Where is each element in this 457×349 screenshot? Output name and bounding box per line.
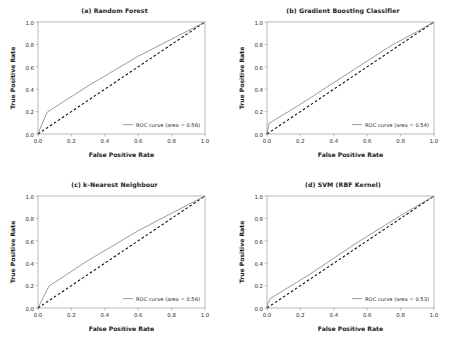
x-tick-label: 0.6 xyxy=(363,312,372,318)
x-tick-label: 0.8 xyxy=(396,312,405,318)
y-axis-title: True Positive Rate xyxy=(9,47,16,110)
y-tick-label: 0.4 xyxy=(25,87,34,93)
y-tick-label: 0.8 xyxy=(25,42,34,48)
panel-b-y-ticks: 1.0 0.8 0.6 0.4 0.2 0.0 xyxy=(254,20,263,138)
roc-curve-figure: (a) Random Forest 1.0 0.8 0.6 0.4 0.2 0.… xyxy=(0,0,457,349)
x-tick-label: 1.0 xyxy=(430,312,439,318)
legend-label: ROC curve (area = 0.54) xyxy=(365,122,429,128)
panel-b-gradient-boosting: (b) Gradient Boosting Classifier 1.0 0.8… xyxy=(229,0,457,174)
x-tick-label: 0.8 xyxy=(167,312,176,318)
x-tick-label: 0.0 xyxy=(34,312,43,318)
y-tick-label: 1.0 xyxy=(254,194,263,200)
panel-c-plot: 1.0 0.8 0.6 0.4 0.2 0.0 0.0 0.2 0.4 0.6 … xyxy=(0,174,229,349)
panel-d-x-ticks: 0.0 0.2 0.4 0.6 0.8 1.0 xyxy=(263,312,439,318)
y-tick-label: 0.6 xyxy=(254,239,263,245)
y-tick-label: 1.0 xyxy=(254,20,263,26)
x-tick-label: 1.0 xyxy=(430,138,439,144)
y-tick-label: 0.4 xyxy=(25,261,34,267)
y-axis-title: True Positive Rate xyxy=(238,221,245,284)
legend-label: ROC curve (area = 0.56) xyxy=(136,122,200,128)
x-tick-label: 0.2 xyxy=(296,138,305,144)
x-tick-label: 0.2 xyxy=(296,312,305,318)
x-axis-title: False Positive Rate xyxy=(89,325,154,332)
panel-a-x-ticks: 0.0 0.2 0.4 0.6 0.8 1.0 xyxy=(34,138,210,144)
panel-d-svm-rbf: (d) SVM (RBF Kernel) 1.0 0.8 0.6 0.4 0.2… xyxy=(229,174,457,349)
y-tick-label: 1.0 xyxy=(25,194,34,200)
y-tick-label: 0.2 xyxy=(254,283,263,289)
panel-b-plot: 1.0 0.8 0.6 0.4 0.2 0.0 0.0 0.2 0.4 0.6 … xyxy=(229,0,457,174)
x-tick-label: 0.2 xyxy=(67,312,76,318)
panel-c-x-ticks: 0.0 0.2 0.4 0.6 0.8 1.0 xyxy=(34,312,210,318)
legend-label: ROC curve (area = 0.53) xyxy=(365,296,429,302)
y-tick-label: 0.6 xyxy=(25,65,34,71)
panel-d-y-ticks: 1.0 0.8 0.6 0.4 0.2 0.0 xyxy=(254,194,263,312)
y-tick-label: 0.8 xyxy=(25,216,34,222)
x-tick-label: 0.8 xyxy=(167,138,176,144)
panel-a-random-forest: (a) Random Forest 1.0 0.8 0.6 0.4 0.2 0.… xyxy=(0,0,229,174)
x-tick-label: 0.4 xyxy=(101,312,110,318)
y-tick-label: 0.4 xyxy=(254,87,263,93)
x-tick-label: 0.4 xyxy=(330,138,339,144)
x-axis-title: False Positive Rate xyxy=(318,325,383,332)
x-tick-label: 0.2 xyxy=(67,138,76,144)
x-tick-label: 0.0 xyxy=(34,138,43,144)
x-tick-label: 0.6 xyxy=(134,312,143,318)
y-axis-title: True Positive Rate xyxy=(238,47,245,110)
legend-label: ROC curve (area = 0.56) xyxy=(136,296,200,302)
x-axis-title: False Positive Rate xyxy=(89,151,154,158)
y-tick-label: 0.4 xyxy=(254,261,263,267)
y-tick-label: 0.8 xyxy=(254,216,263,222)
panel-c-knn: (c) k-Nearest Neighbour 1.0 0.8 0.6 0.4 … xyxy=(0,174,229,349)
panel-d-plot: 1.0 0.8 0.6 0.4 0.2 0.0 0.0 0.2 0.4 0.6 … xyxy=(229,174,457,349)
x-tick-label: 0.4 xyxy=(101,138,110,144)
x-tick-label: 1.0 xyxy=(201,138,210,144)
panel-c-y-ticks: 1.0 0.8 0.6 0.4 0.2 0.0 xyxy=(25,194,34,312)
x-tick-label: 0.6 xyxy=(363,138,372,144)
y-tick-label: 0.2 xyxy=(254,109,263,115)
y-tick-label: 0.6 xyxy=(254,65,263,71)
x-tick-label: 0.0 xyxy=(263,138,272,144)
y-axis-title: True Positive Rate xyxy=(9,221,16,284)
panel-a-plot: 1.0 0.8 0.6 0.4 0.2 0.0 0.0 0.2 0.4 0.6 … xyxy=(0,0,229,174)
y-tick-label: 0.2 xyxy=(25,283,34,289)
x-axis-title: False Positive Rate xyxy=(318,151,383,158)
y-tick-label: 0.2 xyxy=(25,109,34,115)
x-tick-label: 0.6 xyxy=(134,138,143,144)
x-tick-label: 0.4 xyxy=(330,312,339,318)
y-tick-label: 1.0 xyxy=(25,20,34,26)
y-tick-label: 0.8 xyxy=(254,42,263,48)
x-tick-label: 1.0 xyxy=(201,312,210,318)
panel-b-x-ticks: 0.0 0.2 0.4 0.6 0.8 1.0 xyxy=(263,138,439,144)
y-tick-label: 0.6 xyxy=(25,239,34,245)
x-tick-label: 0.8 xyxy=(396,138,405,144)
panel-a-y-ticks: 1.0 0.8 0.6 0.4 0.2 0.0 xyxy=(25,20,34,138)
x-tick-label: 0.0 xyxy=(263,312,272,318)
